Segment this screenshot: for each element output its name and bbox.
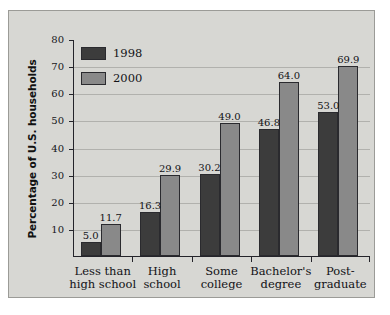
y-axis-line <box>73 40 74 257</box>
x-category-label-4: Post-graduate <box>303 265 378 291</box>
x-axis-end-tick <box>369 257 370 262</box>
y-tick-label: 50 <box>38 116 64 126</box>
y-tick-label: 80 <box>38 35 64 45</box>
bar-value-label: 69.9 <box>332 54 364 65</box>
category-separator-tick <box>132 257 133 262</box>
bar-1998-2 <box>200 174 220 256</box>
bar-value-label: 64.0 <box>273 70 305 81</box>
y-tick-label: 70 <box>38 62 64 72</box>
y-tick-mark <box>69 40 73 41</box>
bar-1998-4 <box>318 112 338 256</box>
y-tick-mark <box>69 203 73 204</box>
bar-1998-3 <box>259 129 279 256</box>
bar-value-label: 46.8 <box>253 117 285 128</box>
legend-item-2000: 2000 <box>81 70 167 90</box>
bar-value-label: 53.0 <box>312 100 344 111</box>
category-separator-tick <box>311 257 312 262</box>
bar-value-label: 29.9 <box>154 163 186 174</box>
y-tick-mark <box>69 67 73 68</box>
bar-value-label: 5.0 <box>75 230 107 241</box>
bar-1998-0 <box>81 242 101 256</box>
bar-value-label: 49.0 <box>214 111 246 122</box>
legend-swatch-1998 <box>81 47 106 60</box>
y-tick-label: 40 <box>38 144 64 154</box>
x-axis-line <box>73 256 370 257</box>
category-label-line: graduate <box>303 278 378 291</box>
y-tick-label: 20 <box>38 198 64 208</box>
bar-value-label: 30.2 <box>194 162 226 173</box>
chart-figure: Percentage of U.S. households 1998 2000 … <box>8 10 375 298</box>
y-tick-mark <box>69 176 73 177</box>
y-tick-mark <box>69 94 73 95</box>
bar-value-label: 11.7 <box>95 212 127 223</box>
y-tick-label: 30 <box>38 171 64 181</box>
y-tick-label: 60 <box>38 89 64 99</box>
bar-value-label: 16.3 <box>134 200 166 211</box>
bar-2000-3 <box>279 82 299 256</box>
category-separator-tick <box>192 257 193 262</box>
bar-2000-1 <box>160 175 180 256</box>
legend-label-2000: 2000 <box>113 71 142 85</box>
category-separator-tick <box>251 257 252 262</box>
bar-1998-1 <box>140 212 160 256</box>
y-tick-mark <box>69 121 73 122</box>
y-tick-mark <box>69 149 73 150</box>
y-tick-label: 10 <box>38 225 64 235</box>
legend: 1998 2000 <box>81 45 167 95</box>
bar-2000-2 <box>220 123 240 256</box>
legend-label-1998: 1998 <box>113 46 142 60</box>
legend-item-1998: 1998 <box>81 45 167 65</box>
bar-2000-4 <box>338 66 358 256</box>
y-tick-mark <box>69 230 73 231</box>
legend-swatch-2000 <box>81 72 106 85</box>
